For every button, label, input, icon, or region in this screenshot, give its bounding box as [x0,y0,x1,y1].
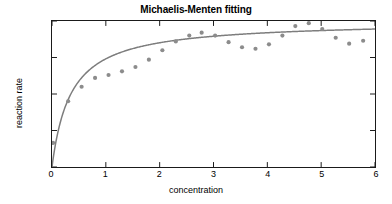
axis-tick-marks [52,21,375,167]
data-point [334,36,338,40]
x-tick-label: 5 [309,170,335,179]
data-point [267,42,271,46]
data-point [187,34,191,38]
x-tick-label: 2 [146,170,172,179]
chart-figure: Michaelis-Menten fitting 00.511.52 01234… [0,0,392,204]
data-point [347,42,351,46]
data-point [320,27,324,31]
x-axis-label: concentration [0,185,392,195]
data-point-group [52,21,365,145]
data-point [93,76,97,80]
plot-canvas [52,21,375,167]
data-point [253,47,257,51]
x-tick-label: 1 [92,170,118,179]
data-point [226,40,230,44]
data-point [213,34,217,38]
data-point [200,31,204,35]
data-point [80,85,84,89]
y-axis-label: reaction rate [14,78,24,128]
data-point [361,39,365,43]
data-point [120,69,124,73]
x-tick-label: 3 [201,170,227,179]
chart-title: Michaelis-Menten fitting [0,4,392,15]
data-point [293,24,297,28]
x-tick-label: 6 [363,170,389,179]
fit-curve-line [52,29,375,167]
data-point [174,39,178,43]
plot-area [51,20,376,168]
data-point [66,99,70,103]
data-point [160,48,164,52]
data-point [106,73,110,77]
data-point [133,65,137,69]
x-tick-label: 0 [38,170,64,179]
data-point [52,141,55,145]
x-tick-label: 4 [255,170,281,179]
data-point [307,21,311,25]
data-point [147,58,151,62]
data-point [280,34,284,38]
data-point [240,45,244,49]
